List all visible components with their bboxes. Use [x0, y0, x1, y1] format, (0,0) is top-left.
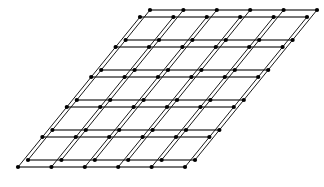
lattice-a-node	[256, 75, 260, 79]
lattice-b-node	[126, 158, 130, 162]
lattice-b-node	[50, 128, 54, 132]
lattice-a-node	[207, 135, 211, 139]
lattice-a-node	[183, 165, 187, 169]
lattice-b-node	[117, 128, 121, 132]
lattice-a-node	[74, 135, 78, 139]
lattice-a-node	[49, 165, 53, 169]
lattice-b-node	[59, 158, 63, 162]
lattice-b-node	[193, 158, 197, 162]
lattice-a-node	[205, 15, 209, 19]
lattice-a-node	[198, 105, 202, 109]
lattice-a-node	[107, 135, 111, 139]
lattice-a-node	[114, 45, 118, 49]
lattice-b-node	[148, 8, 152, 12]
lattice-a-node	[123, 75, 127, 79]
lattice-b-node	[181, 8, 185, 12]
lattice-a-node	[165, 105, 169, 109]
lattice-b-node	[133, 68, 137, 72]
lattice-b-node	[224, 38, 228, 42]
lattice-b-node	[93, 158, 97, 162]
lattice-b-node	[315, 8, 319, 12]
lattice-b-node	[208, 98, 212, 102]
lattice-diagram-svg: Two-dimensional double lattice diagram T…	[0, 0, 324, 187]
lattice-a-node	[305, 15, 309, 19]
lattice-a-node	[132, 105, 136, 109]
lattice-a-node	[247, 45, 251, 49]
lattice-b-node	[142, 98, 146, 102]
lattice-b-node	[217, 128, 221, 132]
lattice-a-node	[156, 75, 160, 79]
lattice-a-node	[116, 165, 120, 169]
lattice-a-node	[272, 15, 276, 19]
lattice-a-node	[238, 15, 242, 19]
lattice-a-node	[214, 45, 218, 49]
lattice-b-node	[124, 38, 128, 42]
lattice-a-node	[189, 75, 193, 79]
lattice-b-node	[160, 158, 164, 162]
lattice-b-node	[257, 38, 261, 42]
lattice-b-node	[75, 98, 79, 102]
lattice-b-node	[84, 128, 88, 132]
lattice-a-node	[98, 105, 102, 109]
lattice-a-node	[232, 105, 236, 109]
lattice-b-node	[166, 68, 170, 72]
lattice-a-node	[174, 135, 178, 139]
lattice-a-node	[65, 105, 69, 109]
lattice-b-node	[26, 158, 30, 162]
lattice-a-node	[150, 165, 154, 169]
lattice-figure: Two-dimensional double lattice diagram T…	[0, 0, 324, 187]
lattice-a-node	[40, 135, 44, 139]
lattice-b-node	[282, 8, 286, 12]
lattice-b-node	[233, 68, 237, 72]
lattice-a-node	[171, 15, 175, 19]
lattice-a-node	[180, 45, 184, 49]
lattice-b-node	[184, 128, 188, 132]
lattice-a-node	[223, 75, 227, 79]
lattice-b-node	[215, 8, 219, 12]
lattice-b-node	[108, 98, 112, 102]
lattice-a-node	[16, 165, 20, 169]
lattice-a-node	[138, 15, 142, 19]
lattice-b-node	[175, 98, 179, 102]
lattice-b-node	[157, 38, 161, 42]
lattice-a-node	[141, 135, 145, 139]
lattice-a-node	[281, 45, 285, 49]
lattice-b-node	[242, 98, 246, 102]
lattice-a-node	[89, 75, 93, 79]
lattice-a-node	[147, 45, 151, 49]
lattice-b-node	[266, 68, 270, 72]
lattice-b-node	[248, 8, 252, 12]
lattice-b-node	[99, 68, 103, 72]
lattice-b-node	[291, 38, 295, 42]
lattice-b-node	[190, 38, 194, 42]
lattice-b-node	[151, 128, 155, 132]
lattice-a-node	[83, 165, 87, 169]
lattice-b-node	[199, 68, 203, 72]
